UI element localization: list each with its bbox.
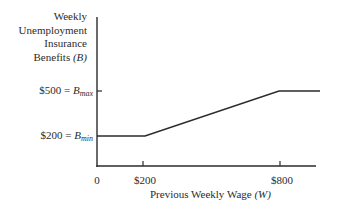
x-tick-800: $800	[271, 174, 293, 186]
x-tick-200: $200	[134, 174, 156, 186]
x-axis-label: Previous Weekly Wage (W)	[150, 188, 271, 200]
x-axis-variable: (W)	[254, 188, 271, 200]
benefit-schedule-line	[97, 91, 320, 136]
x-tick-0: 0	[94, 174, 100, 186]
